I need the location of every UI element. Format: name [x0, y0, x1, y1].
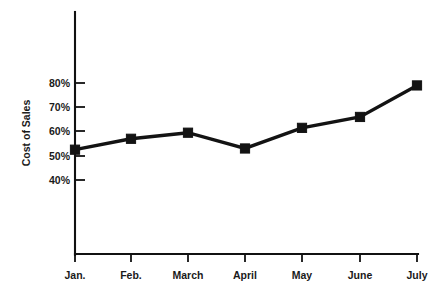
- y-tick-label-50: 50%: [49, 150, 71, 162]
- x-tick-label-june: June: [348, 269, 373, 281]
- data-point-july: [412, 81, 421, 90]
- data-point-may: [297, 123, 306, 132]
- y-tick-label-60: 60%: [49, 125, 71, 137]
- line-chart: 80% 70% 60% 50% 40% Cost of Sales Jan. F…: [0, 0, 445, 288]
- y-tick-label-80: 80%: [49, 77, 71, 89]
- x-tick-label-feb: Feb.: [120, 269, 142, 281]
- x-tick-label-july: July: [406, 269, 427, 281]
- data-point-march: [183, 128, 192, 137]
- y-tick-label-70: 70%: [49, 101, 71, 113]
- data-point-jan: [70, 145, 79, 154]
- y-axis-title: Cost of Sales: [20, 100, 32, 167]
- x-tick-label-march: March: [173, 269, 204, 281]
- data-point-feb: [126, 134, 135, 143]
- x-tick-label-jan: Jan.: [64, 269, 85, 281]
- data-point-april: [240, 144, 249, 153]
- chart-canvas: 80% 70% 60% 50% 40% Cost of Sales Jan. F…: [0, 0, 445, 288]
- data-point-june: [355, 112, 364, 121]
- x-tick-label-april: April: [233, 269, 257, 281]
- y-tick-label-40: 40%: [49, 174, 71, 186]
- x-tick-label-may: May: [292, 269, 313, 281]
